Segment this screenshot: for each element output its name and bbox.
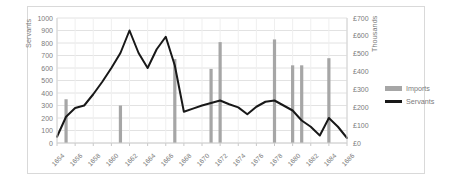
bar [209,69,212,143]
legend-item-imports: Imports [385,84,430,93]
legend-label-servants: Servants [406,97,434,106]
bar [327,58,330,143]
legend-label-imports: Imports [406,84,430,93]
legend-swatch-line-icon [385,100,402,102]
legend-swatch-bar-icon [385,86,402,91]
bar [119,106,122,144]
bar [273,39,276,143]
bar [300,65,303,143]
bar [291,65,294,143]
bar [219,42,222,143]
legend-item-servants: Servants [385,97,434,106]
